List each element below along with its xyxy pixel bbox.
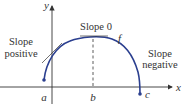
function-label: f bbox=[118, 32, 123, 44]
slope-negative-line2: negative bbox=[142, 59, 178, 70]
slope-negative-line1: Slope bbox=[148, 48, 172, 59]
point-a-label: a bbox=[41, 91, 47, 103]
curve-f bbox=[44, 37, 140, 94]
x-axis-label: x bbox=[175, 81, 181, 93]
y-axis-label: y bbox=[43, 0, 49, 11]
slope-zero-label: Slope 0 bbox=[80, 21, 112, 32]
point-a bbox=[42, 78, 46, 82]
slope-diagram: y x a b c f Slope positive Slope 0 Slope… bbox=[0, 0, 184, 108]
slope-positive-line1: Slope bbox=[9, 36, 33, 47]
point-b-label: b bbox=[90, 91, 96, 103]
point-c-label: c bbox=[145, 88, 150, 100]
point-c bbox=[138, 92, 142, 96]
slope-positive-line2: positive bbox=[4, 48, 38, 59]
